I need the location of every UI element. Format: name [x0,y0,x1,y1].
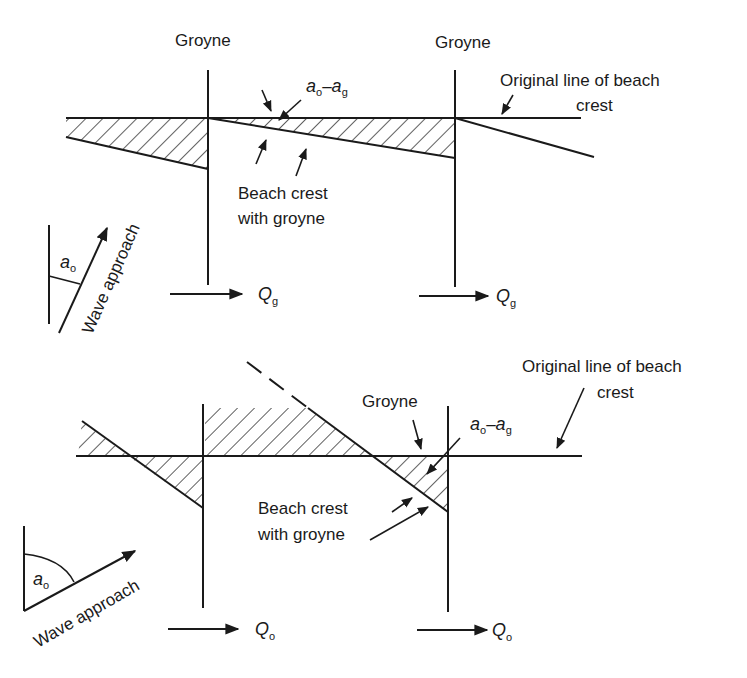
angle-label: ao [33,569,49,591]
top-diagram: Groyne Groyne ao–ag Original line of bea… [49,31,660,337]
transport-label-right: Qg [496,286,516,309]
angle-difference-label: ao–ag [470,414,512,436]
beach-crest-arrow-2 [370,507,428,540]
groyne-right-label: Groyne [435,33,491,52]
beach-crest-slope-right [455,118,594,157]
groyne-arrow [413,420,421,449]
transport-label-left: Qg [258,284,278,307]
groyne-left-label: Groyne [175,31,231,50]
accretion-zone-left [66,118,208,169]
beach-crest-label-2: with groyne [237,209,325,228]
original-line-label: Original line of beach [522,357,682,376]
original-line-label-2: crest [576,96,613,115]
original-line-label: Original line of beach [500,71,660,90]
original-line-label-2: crest [597,383,634,402]
groyne-diagram: Groyne Groyne ao–ag Original line of bea… [0,0,747,678]
beach-crest-dashed-extension [247,362,308,408]
beach-crest-arrow-1 [256,140,266,164]
angle-difference-label: ao–ag [306,76,348,98]
original-line-arrow [557,388,584,448]
angle-arc-line [49,276,80,284]
transport-label-right: Qo [492,620,512,643]
accretion-zone-middle [205,408,372,456]
groyne-label: Groyne [362,392,418,411]
angle-diff-arrow-1 [262,90,271,111]
angle-label: ao [60,252,76,274]
beach-crest-label-2: with groyne [257,525,345,544]
accretion-zone-far-left [78,421,128,456]
original-line-arrow [502,95,513,114]
transport-label-left: Qo [255,619,275,642]
angle-arc [24,554,74,582]
beach-crest-arrow-2 [296,149,306,176]
bottom-diagram: Groyne ao–ag Original line of beach cres… [24,357,682,651]
beach-crest-label: Beach crest [238,184,328,203]
beach-crest-arrow-1 [392,498,412,512]
wave-approach-label: Wave approach [78,221,144,337]
beach-crest-label: Beach crest [258,499,348,518]
